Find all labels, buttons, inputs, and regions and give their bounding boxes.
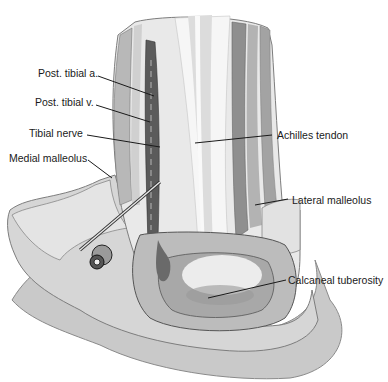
label-calcaneal-tuberosity: Calcaneal tuberosity — [288, 274, 383, 286]
label-post-tibial-v: Post. tibial v. — [35, 96, 94, 108]
label-lateral-malleolus: Lateral malleolus — [292, 194, 371, 206]
leader-medial-malleolus — [88, 160, 112, 178]
ankle-illustration — [0, 0, 388, 382]
label-tibial-nerve: Tibial nerve — [29, 127, 83, 139]
label-post-tibial-a: Post. tibial a. — [38, 67, 98, 79]
label-medial-malleolus: Medial malleolus — [9, 152, 87, 164]
label-achilles-tendon: Achilles tendon — [277, 129, 348, 141]
